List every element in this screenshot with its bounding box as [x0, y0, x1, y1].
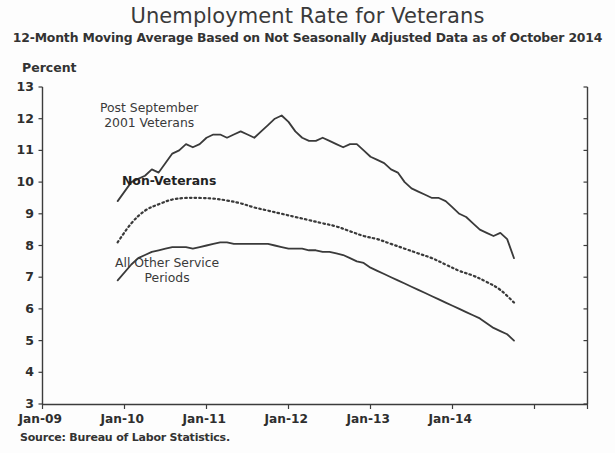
- axes: [42, 87, 588, 405]
- y-tick-label: 7: [8, 269, 34, 284]
- chart-figure: Unemployment Rate for Veterans 12-Month …: [0, 0, 615, 453]
- annotation-line-2: Periods: [115, 270, 219, 285]
- y-tick-label: 3: [8, 396, 34, 411]
- y-tick-label: 12: [8, 111, 34, 126]
- y-tick-label: 8: [8, 238, 34, 253]
- x-tick-label: Jan-13: [347, 412, 390, 426]
- annotation-line-1: All Other Service: [115, 255, 219, 270]
- data-series-layer: [118, 116, 514, 341]
- annotation-line-1: Non-Veterans: [122, 173, 216, 188]
- x-tick-label: Jan-14: [429, 412, 472, 426]
- annotation-post-september-2001-veterans: Post September 2001 Veterans: [100, 100, 198, 130]
- y-tick-label: 6: [8, 301, 34, 316]
- plot-area: [0, 0, 615, 453]
- y-tick-label: 11: [8, 142, 34, 157]
- chart-source: Source: Bureau of Labor Statistics.: [20, 431, 230, 444]
- x-tick-label: Jan-10: [101, 412, 144, 426]
- annotation-line-1: Post September: [100, 100, 198, 115]
- y-tick-label: 13: [8, 79, 34, 94]
- x-tick-label: Jan-09: [19, 412, 62, 426]
- annotation-line-2: 2001 Veterans: [100, 115, 198, 130]
- y-tick-label: 4: [8, 364, 34, 379]
- annotation-non-veterans: Non-Veterans: [122, 173, 216, 188]
- annotation-all-other-service-periods: All Other Service Periods: [115, 255, 219, 285]
- x-tick-label: Jan-11: [183, 412, 226, 426]
- y-tick-label: 5: [8, 333, 34, 348]
- y-tick-label: 10: [8, 174, 34, 189]
- y-tick-label: 9: [8, 206, 34, 221]
- x-tick-label: Jan-12: [265, 412, 308, 426]
